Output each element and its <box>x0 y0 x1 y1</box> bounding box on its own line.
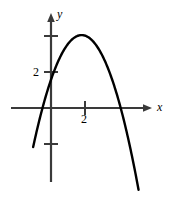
y-axis-arrowhead <box>47 13 55 22</box>
plot-canvas <box>0 0 172 201</box>
y-tick-label-2: 2 <box>33 66 39 78</box>
x-tick-label-2: 2 <box>81 113 87 125</box>
parabola-figure: y x 2 2 <box>0 0 172 201</box>
y-axis-label: y <box>57 8 62 20</box>
x-axis-arrowhead <box>143 104 152 112</box>
x-axis-label: x <box>157 101 162 113</box>
